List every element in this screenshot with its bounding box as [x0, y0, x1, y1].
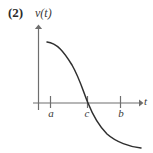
horizontal-axis-arrowhead [139, 99, 144, 106]
vertical-axis-arrowhead [35, 25, 42, 30]
figure-container: (2) v(t) t a c b [0, 0, 153, 153]
velocity-curve [47, 42, 141, 148]
figure-drawing [0, 0, 153, 153]
